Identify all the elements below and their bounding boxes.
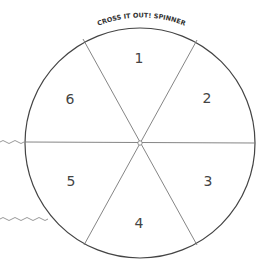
section-label-2: 2 bbox=[203, 90, 212, 106]
spinner-diagram: CROSS IT OUT! SPINNER 1 2 3 4 5 6 bbox=[0, 0, 271, 279]
section-label-6: 6 bbox=[66, 91, 75, 107]
wavy-line-top bbox=[0, 141, 24, 144]
section-label-1: 1 bbox=[135, 50, 144, 66]
section-label-5: 5 bbox=[67, 173, 76, 189]
center-pin bbox=[138, 141, 142, 145]
wavy-line-bottom bbox=[0, 218, 48, 221]
spinner-title: CROSS IT OUT! SPINNER bbox=[96, 11, 187, 27]
section-label-3: 3 bbox=[204, 173, 213, 189]
section-label-4: 4 bbox=[135, 215, 144, 231]
